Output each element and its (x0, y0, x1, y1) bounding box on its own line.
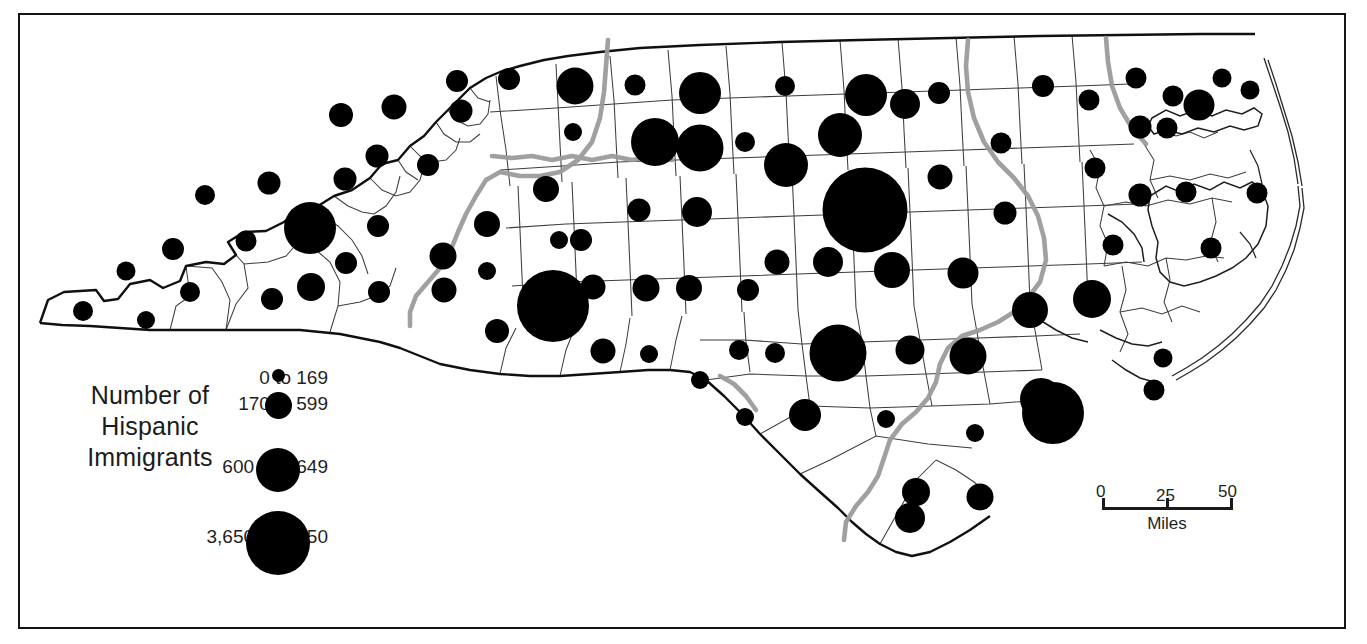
map-legend: Number of Hispanic Immigrants 0 to 169 1… (30, 360, 590, 600)
scale-tick-25 (1166, 498, 1169, 510)
scale-tick-label-50: 50 (1218, 482, 1237, 502)
scale-tick-50 (1230, 498, 1233, 510)
map-page: Number of Hispanic Immigrants 0 to 169 1… (0, 0, 1367, 644)
scale-tick-0 (1102, 498, 1105, 510)
legend-symbol-3 (256, 448, 300, 492)
legend-symbol-4 (246, 511, 310, 575)
scale-bar: 0 25 50 Miles (1090, 476, 1270, 556)
legend-symbol-2 (265, 392, 292, 419)
scale-bar-unit-label: Miles (1102, 514, 1232, 534)
legend-title-line-2: Hispanic (35, 411, 265, 442)
legend-symbol-1 (272, 369, 285, 382)
